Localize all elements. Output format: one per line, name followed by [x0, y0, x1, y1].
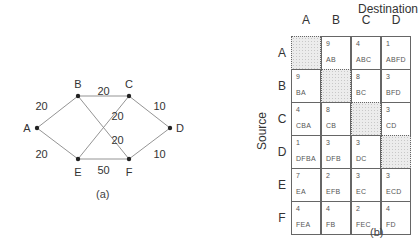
node-label: F — [126, 166, 133, 178]
cell-cost: 4 — [326, 205, 330, 212]
node-label: B — [74, 78, 81, 90]
cell-path: DC — [356, 155, 367, 162]
table-cell: 1DFBA — [291, 135, 321, 169]
cell-path: AB — [326, 56, 336, 63]
table-cell: 8CB — [321, 102, 351, 136]
table-cell: 3DFB — [321, 135, 351, 169]
node-E — [76, 157, 80, 161]
cell-cost: 8 — [356, 73, 360, 80]
edge-weight-label: 10 — [153, 100, 165, 112]
table-cell: 9BA — [291, 69, 321, 103]
cell-path: FD — [386, 221, 396, 228]
cell-path: DFBA — [296, 155, 316, 162]
cell-path: FB — [326, 221, 336, 228]
node-C — [127, 94, 131, 98]
edge-weight-label: 10 — [153, 148, 165, 160]
row-header: A — [276, 46, 288, 60]
edge-weight-label: 20 — [35, 100, 47, 112]
cell-cost: 4 — [356, 40, 360, 47]
table-cell: 4FEA — [291, 201, 321, 235]
node-label: D — [176, 122, 184, 134]
cell-path: ABFD — [386, 56, 406, 63]
edge-weight-label: 50 — [97, 164, 109, 176]
row-header: B — [276, 79, 288, 93]
cell-path: FEA — [296, 221, 311, 228]
cell-cost: 4 — [386, 205, 390, 212]
cell-path: BA — [296, 89, 306, 96]
cell-path: ABC — [356, 56, 371, 63]
table-cell: 4ABC — [351, 36, 381, 70]
table-cell: 3BFD — [381, 69, 411, 103]
table-cell: 3ECD — [381, 168, 411, 202]
node-D — [168, 126, 172, 130]
cell-cost: 2 — [326, 172, 330, 179]
cell-path: CBA — [296, 122, 311, 129]
cell-cost: 3 — [386, 172, 390, 179]
cell-cost: 7 — [296, 172, 300, 179]
table-cell: 7EA — [291, 168, 321, 202]
table-cell: 9AB — [321, 36, 351, 70]
cell-path: BFD — [386, 89, 401, 96]
edge-weight-label: 20 — [35, 148, 47, 160]
cell-cost: 3 — [386, 106, 390, 113]
node-A — [35, 126, 39, 130]
cell-cost: 1 — [386, 40, 390, 47]
node-F — [127, 157, 131, 161]
cell-cost: 9 — [296, 73, 300, 80]
cell-path: EC — [356, 188, 366, 195]
cell-path: FEC — [356, 221, 371, 228]
node-label: C — [125, 78, 133, 90]
table-cell: 2EFB — [321, 168, 351, 202]
column-header: B — [321, 13, 351, 27]
table-cell: 4FD — [381, 201, 411, 235]
table-cell: 4CBA — [291, 102, 321, 136]
diagonal-cell — [381, 135, 411, 169]
cell-cost: 3 — [356, 139, 360, 146]
edge-weight-label: 20 — [111, 110, 123, 122]
row-header: D — [276, 145, 288, 159]
diagonal-cell — [351, 102, 381, 136]
node-B — [76, 94, 80, 98]
table-caption: (b) — [370, 226, 383, 238]
network-graph: 2020202020101050ABCDEF — [0, 0, 230, 242]
column-header: D — [381, 13, 411, 27]
column-header: C — [351, 13, 381, 27]
cell-path: CB — [326, 122, 336, 129]
table-cell: 3CD — [381, 102, 411, 136]
cell-cost: 4 — [296, 205, 300, 212]
cell-cost: 8 — [326, 106, 330, 113]
cell-cost: 3 — [356, 172, 360, 179]
cell-path: EA — [296, 188, 306, 195]
edge-weight-label: 20 — [97, 85, 109, 97]
column-header: A — [291, 13, 321, 27]
cell-cost: 4 — [296, 106, 300, 113]
edge-weight-label: 20 — [111, 134, 123, 146]
table-cell: 3DC — [351, 135, 381, 169]
row-header: C — [276, 112, 288, 126]
cell-cost: 1 — [296, 139, 300, 146]
cell-path: EFB — [326, 188, 341, 195]
cell-path: CD — [386, 122, 397, 129]
diagonal-cell — [321, 69, 351, 103]
cell-cost: 2 — [356, 205, 360, 212]
source-label: Source — [255, 112, 269, 150]
row-header: E — [276, 178, 288, 192]
cell-cost: 3 — [386, 73, 390, 80]
table-cell: 4FB — [321, 201, 351, 235]
cell-path: DFB — [326, 155, 341, 162]
table-cell: 1ABFD — [381, 36, 411, 70]
node-label: E — [74, 166, 81, 178]
diagonal-cell — [291, 36, 321, 70]
node-label: A — [23, 122, 31, 134]
row-header: F — [276, 211, 288, 225]
table-cell: 3EC — [351, 168, 381, 202]
cell-path: BC — [356, 89, 366, 96]
table-cell: 8BC — [351, 69, 381, 103]
graph-caption: (a) — [96, 188, 109, 200]
cell-path: ECD — [386, 188, 402, 195]
cell-cost: 9 — [326, 40, 330, 47]
cell-cost: 3 — [326, 139, 330, 146]
